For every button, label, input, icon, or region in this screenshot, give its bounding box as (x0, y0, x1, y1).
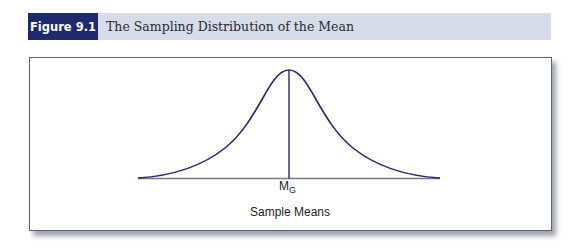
mean-tick-label: MG (279, 179, 296, 195)
mean-label-main: M (279, 179, 289, 193)
mean-label-subscript: G (289, 185, 296, 195)
x-axis-label: Sample Means (245, 205, 335, 219)
